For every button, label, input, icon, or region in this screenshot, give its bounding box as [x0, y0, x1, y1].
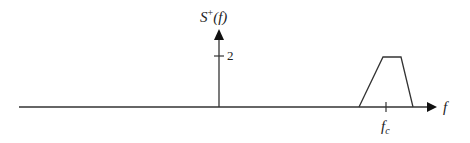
y-axis-label: S+(f) — [200, 7, 227, 26]
spectrum-diagram: 2 S+(f) fc f — [0, 0, 470, 143]
impulse-arrowhead-icon — [214, 29, 224, 40]
diagram-svg: 2 S+(f) fc f — [0, 0, 470, 143]
x-axis-arrowhead-icon — [427, 102, 437, 112]
band-trapezoid — [359, 57, 413, 107]
height-label: 2 — [227, 48, 234, 63]
fc-label: fc — [381, 118, 390, 136]
x-axis-label: f — [443, 99, 449, 115]
